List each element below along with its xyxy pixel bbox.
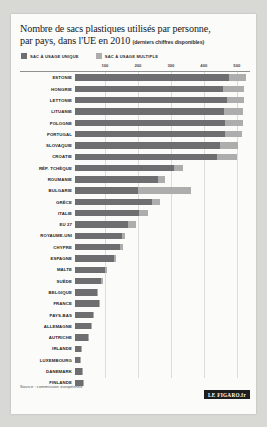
x-axis-tick-label: 400: [200, 63, 207, 68]
bar-track: [75, 174, 250, 185]
bar-segment-multi-use: [114, 255, 116, 261]
bar-row-label: BULGARIE: [20, 188, 75, 193]
bar-row-label: MALTE: [20, 267, 75, 272]
bar-stack: [75, 142, 238, 148]
bar-segment-multi-use: [152, 199, 160, 205]
bar-row: PAYS-BAS: [20, 309, 250, 320]
bar-track: [75, 95, 250, 106]
bar-segment-single-use: [75, 233, 122, 239]
bar-stack: [75, 97, 244, 103]
bar-row: LUXEMBOURG: [20, 355, 250, 366]
bar-stack: [75, 346, 81, 352]
bar-row: RÉP. TCHÈQUE: [20, 163, 250, 174]
bar-row-label: LITUANIE: [20, 109, 75, 114]
bar-track: [75, 355, 250, 366]
bar-stack: [75, 221, 136, 227]
bar-track: [75, 276, 250, 287]
bar-row: MALTE: [20, 264, 250, 275]
chart-title-line-1: Nombre de sacs plastiques utilisés par p…: [20, 23, 248, 35]
bar-track: [75, 208, 250, 219]
bar-segment-multi-use: [91, 323, 92, 329]
bar-track: [75, 72, 250, 83]
bar-segment-multi-use: [120, 244, 123, 250]
bar-segment-single-use: [75, 131, 225, 137]
bar-segment-single-use: [75, 210, 139, 216]
bar-row: SUÈDE: [20, 276, 250, 287]
bar-segment-single-use: [75, 221, 128, 227]
bar-row-label: PAYS-BAS: [20, 313, 75, 318]
x-axis-tick-label: 100: [101, 63, 108, 68]
legend-swatch-icon: [96, 53, 102, 59]
bar-segment-single-use: [75, 300, 99, 306]
chart-subtitle: (derniers chiffres disponibles): [133, 39, 204, 45]
bar-track: [75, 309, 250, 320]
bar-segment-single-use: [75, 120, 225, 126]
bar-row-label: ROYAUME-UNI: [20, 233, 75, 238]
chart-legend: SAC À USAGE UNIQUE SAC À USAGE MULTIPLE: [11, 48, 256, 59]
bar-row-label: LUXEMBOURG: [20, 358, 75, 363]
x-axis-tick-label: 300: [167, 63, 174, 68]
bar-row: ROUMANIE: [20, 174, 250, 185]
bar-row-label: ITALIE: [20, 211, 75, 216]
bar-track: [75, 242, 250, 253]
bar-segment-single-use: [75, 74, 229, 80]
bar-segment-multi-use: [97, 289, 98, 295]
bar-row: PORTUGAL: [20, 129, 250, 140]
bar-segment-multi-use: [220, 142, 238, 148]
bar-segment-multi-use: [93, 312, 94, 318]
bar-segment-single-use: [75, 312, 93, 318]
bar-track: [75, 321, 250, 332]
plot-area: 100200300400500 ESTONIEHONGRIELETTONIELI…: [20, 63, 250, 381]
bar-segment-single-use: [75, 108, 224, 114]
bar-stack: [75, 278, 103, 284]
bar-segment-single-use: [75, 289, 97, 295]
bar-row: ESTONIE: [20, 72, 250, 83]
bar-row: ALLEMAGNE: [20, 321, 250, 332]
bar-segment-multi-use: [224, 108, 243, 114]
title-block: Nombre de sacs plastiques utilisés par p…: [11, 14, 256, 48]
bar-stack: [75, 289, 98, 295]
chart-figure: Nombre de sacs plastiques utilisés par p…: [11, 14, 256, 414]
chart-footer: Source : commission européenne LE FIGARO…: [20, 384, 250, 406]
source-note: Source : commission européenne: [20, 384, 250, 389]
bar-segment-multi-use: [229, 74, 247, 80]
bar-row: DANEMARK: [20, 366, 250, 377]
bar-row: GRÈCE: [20, 196, 250, 207]
bar-segment-multi-use: [138, 187, 191, 193]
bar-track: [75, 219, 250, 230]
bar-stack: [75, 255, 116, 261]
bar-row: ITALIE: [20, 208, 250, 219]
bar-row-label: GRÈCE: [20, 200, 75, 205]
bar-row-label: EU 27: [20, 222, 75, 227]
bar-segment-single-use: [75, 86, 223, 92]
bar-track: [75, 253, 250, 264]
bar-row: ROYAUME-UNI: [20, 230, 250, 241]
bar-segment-multi-use: [101, 278, 102, 284]
bar-row-label: ESTONIE: [20, 75, 75, 80]
bar-row: IRLANDE: [20, 343, 250, 354]
bar-row: CHYPRE: [20, 242, 250, 253]
bar-segment-single-use: [75, 323, 91, 329]
bar-stack: [75, 187, 191, 193]
bar-segment-multi-use: [225, 120, 243, 126]
bar-segment-single-use: [75, 176, 158, 182]
bar-row: BULGARIE: [20, 185, 250, 196]
bar-segment-multi-use: [128, 221, 136, 227]
bar-segment-single-use: [75, 278, 101, 284]
bar-segment-single-use: [75, 97, 227, 103]
legend-label-multi-use: SAC À USAGE MULTIPLE: [105, 54, 158, 59]
bar-stack: [75, 210, 148, 216]
bar-row-label: BELGIQUE: [20, 290, 75, 295]
bar-segment-single-use: [75, 142, 220, 148]
bar-stack: [75, 165, 183, 171]
bar-segment-multi-use: [225, 131, 242, 137]
bar-row: EU 27: [20, 219, 250, 230]
bar-stack: [75, 368, 83, 374]
bar-track: [75, 151, 250, 162]
bar-track: [75, 264, 250, 275]
bar-segment-multi-use: [82, 368, 83, 374]
bar-row-label: IRLANDE: [20, 346, 75, 351]
bar-segment-multi-use: [227, 97, 244, 103]
bar-stack: [75, 199, 160, 205]
bar-row-label: LETTONIE: [20, 98, 75, 103]
